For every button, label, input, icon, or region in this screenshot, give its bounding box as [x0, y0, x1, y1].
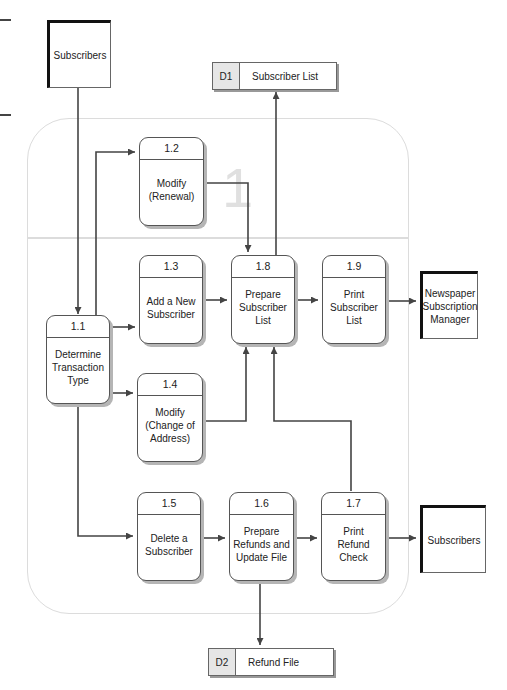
process-1-8: 1.8 Prepare Subscriber List	[231, 255, 295, 344]
process-label: Print Refund Check	[322, 509, 385, 580]
store-id: D2	[209, 649, 236, 675]
flow-1-4-to-1-8	[203, 347, 246, 421]
process-1-1: 1.1 Determine Transaction Type	[46, 315, 110, 404]
store-label: Refund File	[236, 649, 333, 675]
flow-1-2-to-1-8	[204, 183, 248, 252]
entity-label: Newspaper Subscription Manager	[422, 287, 477, 326]
process-label: Determine Transaction Type	[47, 332, 109, 403]
process-1-3: 1.3 Add a New Subscriber	[139, 255, 203, 344]
external-entity-subscribers-top: Subscribers	[47, 20, 111, 88]
process-label: Prepare Refunds and Update File	[230, 509, 293, 580]
process-1-2: 1.2 Modify (Renewal)	[139, 137, 204, 226]
flow-1-1-to-1-2	[96, 152, 135, 315]
process-1-5: 1.5 Delete a Subscriber	[137, 492, 201, 581]
external-entity-newspaper-manager: Newspaper Subscription Manager	[420, 271, 478, 339]
process-label: Prepare Subscriber List	[232, 272, 294, 343]
entity-label: Subscribers	[428, 534, 481, 547]
data-store-d1: D1 Subscriber List	[212, 62, 337, 90]
dfd-canvas: 1	[0, 0, 507, 690]
flow-1-1-to-1-5	[78, 405, 133, 536]
process-1-7: 1.7 Print Refund Check	[321, 492, 386, 581]
process-1-9: 1.9 Print Subscriber List	[322, 255, 386, 344]
process-label: Modify (Renewal)	[140, 154, 203, 225]
process-label: Print Subscriber List	[323, 272, 385, 343]
data-store-d2: D2 Refund File	[208, 648, 334, 676]
process-label: Add a New Subscriber	[140, 272, 202, 343]
flow-1-7-to-1-8	[274, 347, 351, 491]
store-id: D1	[213, 63, 240, 89]
entity-label: Subscribers	[54, 49, 107, 62]
external-entity-subscribers-right: Subscribers	[420, 505, 486, 573]
process-1-4: 1.4 Modify (Change of Address)	[137, 373, 203, 462]
process-label: Modify (Change of Address)	[138, 390, 202, 461]
process-1-6: 1.6 Prepare Refunds and Update File	[229, 492, 294, 581]
process-label: Delete a Subscriber	[138, 509, 200, 580]
store-label: Subscriber List	[240, 63, 336, 89]
